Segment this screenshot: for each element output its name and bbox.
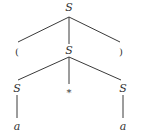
node-right-a: a (120, 120, 127, 133)
node-left-s: S (13, 82, 21, 95)
node-lparen: ( (15, 46, 19, 57)
parse-tree-diagram: S ( S ) S * S a a (0, 0, 143, 133)
edge-mid-right (69, 57, 121, 80)
node-root: S (65, 1, 73, 14)
node-right-s: S (119, 82, 127, 95)
node-rparen: ) (119, 46, 123, 57)
edge-root-rparen (69, 17, 120, 42)
node-left-a: a (14, 120, 21, 133)
edge-mid-left (18, 57, 69, 80)
node-star: * (67, 87, 72, 98)
node-mid: S (65, 44, 73, 57)
edge-root-lparen (18, 17, 69, 42)
